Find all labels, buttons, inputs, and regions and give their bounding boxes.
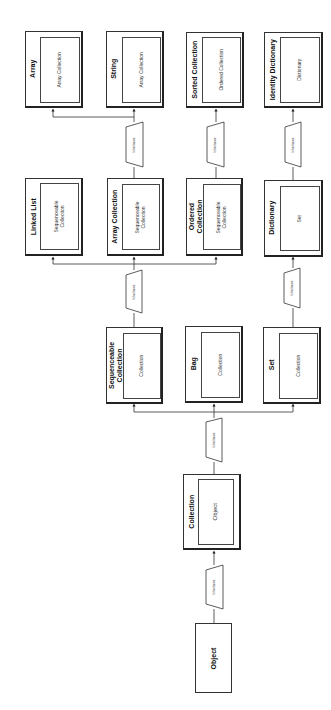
parent-class-box: Sequenceable Collection [40, 183, 79, 250]
class-node-array[interactable]: Array Array Collection [25, 31, 83, 108]
parent-class-box: Set [280, 186, 320, 251]
class-node-object[interactable]: Object [195, 623, 232, 693]
inheritance-label: Inheritance [206, 565, 223, 609]
class-node-dictionary[interactable]: Dictionary Set [264, 180, 323, 257]
parent-class-box: Collection [201, 332, 240, 398]
parent-class-box: Sequenceable Collection [203, 184, 241, 250]
inheritance-label: Inheritance [126, 122, 143, 167]
parent-class-box: Collection [123, 333, 161, 399]
class-title: Set [268, 360, 276, 371]
parent-class-box: Sequenceable Collection [122, 184, 160, 250]
inheritance-label: Inheritance [206, 418, 222, 462]
class-title: Collection [188, 495, 196, 529]
class-node-bag[interactable]: Bag Collection [185, 326, 243, 403]
class-title: Object [210, 647, 217, 669]
class-node-linked-list[interactable]: Linked List Sequenceable Collection [25, 178, 83, 256]
class-node-array-collection[interactable]: Array Collection Sequenceable Collection [107, 178, 164, 256]
parent-class-box: Array Collection [122, 37, 161, 103]
inheritance-label: Inheritance [126, 270, 142, 313]
class-title: Array Collection [112, 189, 120, 243]
class-title: Bag [190, 357, 198, 370]
class-node-string[interactable]: String Array Collection [106, 31, 164, 108]
parent-class-box: Object [198, 479, 234, 545]
class-node-sequenceable-collection[interactable]: Sequenceable Collection Collection [106, 327, 163, 404]
class-title: String [111, 59, 119, 79]
class-title: Sorted Collection [191, 41, 199, 99]
inheritance-label: Inheritance [284, 268, 300, 308]
class-title: Ordered Collection [188, 200, 203, 234]
class-node-ordered-collection[interactable]: Ordered Collection Sequenceable Collecti… [186, 178, 243, 256]
class-node-set[interactable]: Set Collection [263, 327, 321, 404]
class-node-sorted-collection[interactable]: Sorted Collection Ordered Collection [186, 32, 244, 108]
class-title: Identity Dictionary [269, 39, 277, 100]
class-node-collection[interactable]: Collection Object [183, 474, 241, 550]
parent-class-box: Ordered Collection [202, 37, 241, 103]
inheritance-label: Inheritance [207, 122, 224, 167]
inheritance-label: Inheritance [285, 122, 301, 167]
class-title: Array [30, 60, 38, 78]
parent-class-box: Collection [279, 333, 318, 399]
parent-class-box: Array Collection [40, 37, 80, 103]
class-title: Dictionary [269, 201, 277, 235]
class-node-identity-dictionary[interactable]: Identity Dictionary Dictionary [264, 32, 323, 108]
parent-class-box: Dictionary [280, 37, 320, 103]
class-title: Linked List [30, 198, 38, 235]
class-hierarchy-diagram: Inheritance Inheritance Inheritance Inhe… [0, 0, 331, 710]
class-title: Sequenceable Collection [108, 341, 123, 388]
